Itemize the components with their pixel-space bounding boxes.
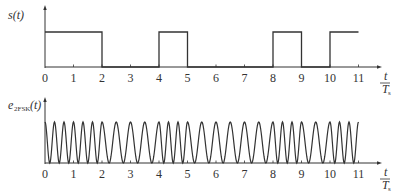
tick-label: 10: [324, 167, 336, 181]
tick-label: 1: [71, 167, 77, 181]
bottom-x-axis-arrow-icon: [377, 161, 382, 164]
tick-label: 4: [156, 71, 162, 85]
tick-label: 3: [128, 167, 134, 181]
bottom-x-ticks: 01234567891011: [42, 161, 364, 182]
tick-label: 2: [99, 167, 105, 181]
tick-label: 4: [156, 167, 162, 181]
2fsk-modulation-diagram: s(t) 01234567891011 t T s e 2FSK (t) 012…: [0, 0, 394, 196]
tick-label: 5: [185, 167, 191, 181]
s-t-axis-label: s(t): [8, 8, 24, 22]
baseband-signal-plot: s(t) 01234567891011 t T s: [8, 5, 391, 97]
svg-text:t: t: [384, 165, 388, 179]
tick-label: 2: [99, 71, 105, 85]
top-x-axis-arrow-icon: [377, 65, 382, 68]
fsk-axis-label: e 2FSK (t): [8, 98, 41, 113]
fsk-signal-plot: e 2FSK (t) 01234567891011 t T s: [8, 97, 391, 193]
tick-label: 6: [213, 71, 219, 85]
bottom-y-axis-arrow-icon: [43, 97, 46, 102]
bottom-x-axis-unit-label: t T s: [380, 165, 391, 193]
tick-label: 6: [213, 167, 219, 181]
top-x-axis-unit-label: t T s: [380, 69, 391, 97]
svg-text:(t): (t): [30, 98, 41, 112]
tick-label: 9: [299, 71, 305, 85]
tick-label: 9: [299, 167, 305, 181]
baseband-waveform: [45, 32, 359, 67]
svg-text:t: t: [384, 69, 388, 83]
tick-label: 11: [353, 167, 365, 181]
tick-label: 10: [324, 71, 336, 85]
tick-label: 7: [242, 167, 248, 181]
tick-label: 11: [353, 71, 365, 85]
tick-label: 0: [42, 71, 48, 85]
top-y-axis-arrow-icon: [43, 5, 46, 10]
tick-label: 8: [270, 71, 276, 85]
tick-label: 8: [270, 167, 276, 181]
svg-text:2FSK: 2FSK: [14, 105, 30, 113]
tick-label: 3: [128, 71, 134, 85]
tick-label: 7: [242, 71, 248, 85]
tick-label: 5: [185, 71, 191, 85]
tick-label: 0: [42, 167, 48, 181]
svg-text:s: s: [388, 185, 391, 193]
fsk-waveform: [45, 122, 359, 163]
svg-text:s: s: [388, 89, 391, 97]
tick-label: 1: [71, 71, 77, 85]
